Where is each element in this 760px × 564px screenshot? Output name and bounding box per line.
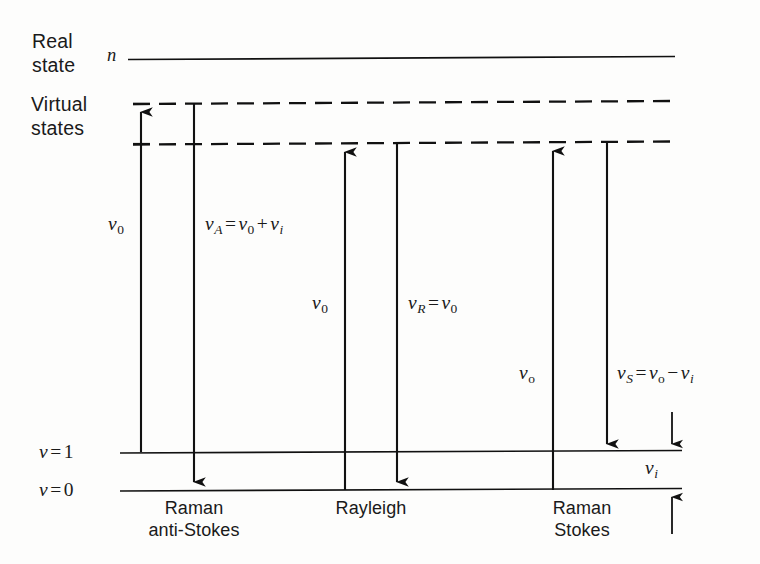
vibrational-level-v0-line — [120, 489, 682, 492]
real-state-symbol-n: n — [107, 44, 116, 67]
real-state-label-line2: state — [32, 54, 75, 78]
nu-symbol: ν — [270, 213, 279, 234]
equals-sign: = — [425, 292, 441, 313]
caption-line1: Raman — [114, 498, 274, 520]
virtual-state-lower-line — [133, 142, 672, 145]
v0-value: 0 — [64, 479, 74, 500]
plus-sign: + — [254, 213, 270, 234]
real-state-side-label: Real state — [32, 30, 75, 78]
nu-symbol: ν — [205, 213, 214, 234]
nu-symbol: ν — [617, 362, 626, 383]
nu-subscript: i — [279, 222, 283, 237]
virtual-states-side-label: Virtual states — [31, 93, 87, 141]
nu-subscript: S — [626, 371, 633, 386]
nu-subscript: i — [654, 466, 658, 481]
caption-line1: Rayleigh — [291, 498, 451, 520]
minus-sign: − — [665, 362, 681, 383]
v0-symbol: v — [39, 479, 48, 500]
stokes-excitation-label: νo — [519, 361, 535, 388]
real-state-label-line1: Real — [32, 30, 75, 54]
caption-line1: Raman — [502, 498, 662, 520]
rayleigh-caption: Rayleigh — [291, 498, 451, 520]
nu-symbol: ν — [108, 213, 117, 234]
equals-sign: = — [222, 213, 238, 234]
anti-stokes-emission-label: νA=ν0+νi — [205, 212, 283, 239]
caption-line2: anti-Stokes — [114, 520, 274, 542]
vibrational-level-v0-label: v=0 — [39, 478, 73, 502]
caption-line2: Stokes — [502, 520, 662, 542]
rayleigh-excitation-label: ν0 — [312, 291, 328, 318]
nu-symbol: ν — [238, 213, 247, 234]
nu-symbol: ν — [645, 457, 654, 478]
nu-subscript: o — [658, 371, 665, 386]
nu-subscript: 0 — [117, 222, 124, 237]
real-state-level-line — [128, 57, 675, 60]
nu-symbol: ν — [519, 362, 528, 383]
anti-stokes-excitation-label: ν0 — [108, 212, 124, 239]
virtual-states-label-line1: Virtual — [31, 93, 87, 117]
nu-symbol: ν — [408, 292, 417, 313]
rayleigh-emission-label: νR=ν0 — [408, 291, 457, 318]
v1-symbol: v — [39, 441, 48, 462]
nu-subscript: 0 — [321, 301, 328, 316]
raman-anti-stokes-caption: Raman anti-Stokes — [114, 498, 274, 542]
anti-stokes-excitation-arrow — [133, 104, 150, 452]
vibrational-level-v1-label: v=1 — [39, 440, 73, 464]
equals-sign: = — [633, 362, 649, 383]
nu-symbol: ν — [312, 292, 321, 313]
nu-subscript: o — [528, 371, 535, 386]
nu-subscript: 0 — [450, 301, 457, 316]
virtual-states-label-line2: states — [31, 117, 87, 141]
v1-value: 1 — [64, 441, 74, 462]
vibrational-gap-label: νi — [645, 456, 658, 483]
nu-symbol: ν — [441, 292, 450, 313]
nu-subscript: i — [689, 371, 693, 386]
raman-stokes-caption: Raman Stokes — [502, 498, 662, 542]
stokes-emission-label: νS=νo−νi — [617, 361, 694, 388]
nu-symbol: ν — [649, 362, 658, 383]
raman-energy-level-diagram: Real state n Virtual states v=1 v=0 ν0 ν… — [0, 0, 760, 564]
vibrational-level-v1-line — [120, 451, 682, 454]
virtual-state-upper-line — [133, 101, 672, 104]
